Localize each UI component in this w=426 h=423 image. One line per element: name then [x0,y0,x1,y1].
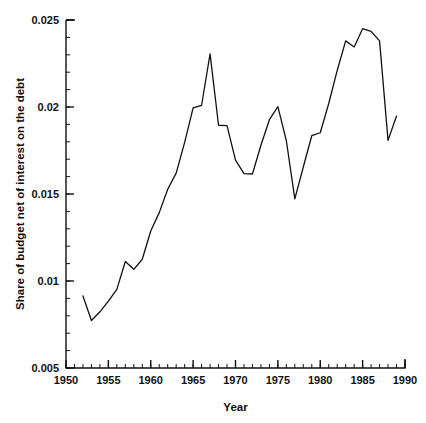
chart-figure: 0.0050.010.0150.020.02519501955196019651… [0,0,426,423]
x-axis-title: Year [223,401,248,413]
y-axis-ticks: 0.0050.010.0150.020.025 [31,14,74,374]
y-tick-label: 0.005 [31,362,59,374]
x-tick-label: 1970 [223,374,247,386]
x-tick-label: 1950 [54,374,78,386]
y-axis-title: Share of budget net of interest on the d… [14,78,26,310]
x-tick-label: 1990 [393,374,417,386]
x-tick-label: 1985 [350,374,374,386]
x-tick-label: 1955 [96,374,120,386]
x-tick-label: 1975 [266,374,290,386]
axis-spines [66,20,405,368]
x-tick-label: 1965 [181,374,205,386]
line-chart-canvas: 0.0050.010.0150.020.02519501955196019651… [0,0,426,423]
x-tick-label: 1980 [308,374,332,386]
y-tick-label: 0.015 [31,188,59,200]
y-tick-label: 0.01 [38,275,59,287]
y-tick-label: 0.025 [31,14,59,26]
x-axis-ticks: 195019551960196519701975198019851990 [54,360,417,386]
x-tick-label: 1960 [139,374,163,386]
y-tick-label: 0.02 [38,101,59,113]
data-series-line [83,29,397,321]
